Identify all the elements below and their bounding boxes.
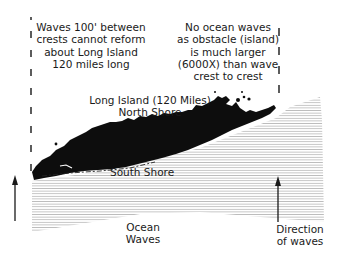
right-annotation-line: (6000X) than wave [168, 58, 288, 70]
right-annotation-line: is much larger [168, 46, 288, 58]
right-annotation-line: as obstacle (island) [168, 33, 288, 45]
right-annotation-line: No ocean waves [168, 21, 288, 33]
left-annotation: Waves 100' between crests cannot reform … [28, 21, 154, 70]
left-annotation-line: 120 miles long [28, 58, 154, 70]
long-island-wave-diagram: Waves 100' between crests cannot reform … [0, 0, 346, 262]
direction-line: of waves [270, 235, 330, 247]
arrow-up-icon [12, 175, 18, 221]
left-annotation-line: crests cannot reform [28, 33, 154, 45]
south-shore-label: South Shore [110, 166, 170, 178]
island-name: Long Island (120 Miles) [80, 94, 220, 106]
ocean-waves-line: Waves [118, 233, 168, 245]
right-annotation-line: crest to crest [168, 70, 288, 82]
direction-of-waves-label: Direction of waves [270, 223, 330, 248]
island-label: Long Island (120 Miles) North Shore [80, 94, 220, 119]
north-shore-label: North Shore [80, 106, 220, 118]
direction-line: Direction [270, 223, 330, 235]
left-annotation-line: Waves 100' between [28, 21, 154, 33]
ocean-waves-label: Ocean Waves [118, 221, 168, 246]
left-annotation-line: about Long Island [28, 46, 154, 58]
right-annotation: No ocean waves as obstacle (island) is m… [168, 21, 288, 82]
ocean-waves-line: Ocean [118, 221, 168, 233]
